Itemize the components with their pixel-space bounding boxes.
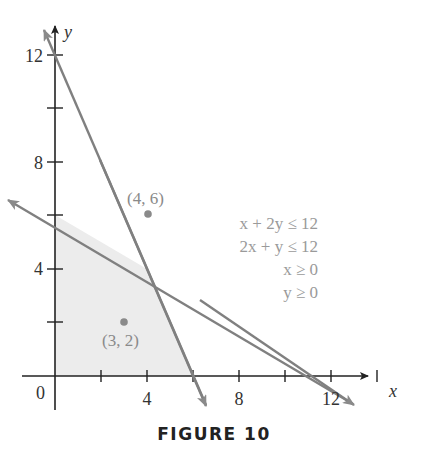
y-tick-label-12: 12 <box>25 46 43 66</box>
inequality-3: x ≥ 0 <box>283 260 318 279</box>
point-label-4-6: (4, 6) <box>127 189 164 208</box>
point-label-3-2: (3, 2) <box>102 331 139 350</box>
y-axis-label: y <box>62 22 72 42</box>
feasible-region-chart: y x 0 4 8 12 4 8 12 (4, 6) (3, 2) x + 2y… <box>0 0 428 456</box>
x-tick-label-4: 4 <box>143 389 152 409</box>
inequality-1: x + 2y ≤ 12 <box>240 214 318 233</box>
inequality-2: 2x + y ≤ 12 <box>240 237 318 256</box>
point-4-6 <box>144 210 152 218</box>
x-tick-label-12: 12 <box>322 389 340 409</box>
y-tick-label-8: 8 <box>34 153 43 173</box>
figure-caption: FIGURE 10 <box>0 424 428 444</box>
origin-label: 0 <box>36 383 45 403</box>
inequality-4: y ≥ 0 <box>283 283 318 302</box>
y-tick-label-4: 4 <box>34 259 43 279</box>
point-3-2 <box>120 318 128 326</box>
x-axis-label: x <box>388 381 397 401</box>
x-tick-label-8: 8 <box>235 389 244 409</box>
inequality-system: x + 2y ≤ 12 2x + y ≤ 12 x ≥ 0 y ≥ 0 <box>240 214 318 302</box>
